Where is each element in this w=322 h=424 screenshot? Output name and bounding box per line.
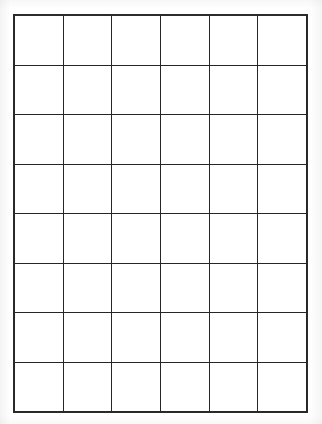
table-row (15, 313, 307, 363)
grid-container (14, 15, 307, 412)
grid-cell[interactable] (63, 115, 112, 165)
page-canvas (0, 0, 322, 424)
grid-cell[interactable] (160, 164, 209, 214)
grid-cell[interactable] (63, 263, 112, 313)
grid-cell[interactable] (258, 115, 307, 165)
grid-cell[interactable] (15, 263, 64, 313)
blank-grid-table (14, 15, 307, 412)
grid-cell[interactable] (160, 313, 209, 363)
grid-cell[interactable] (112, 214, 161, 264)
grid-cell[interactable] (258, 65, 307, 115)
table-row (15, 164, 307, 214)
grid-cell[interactable] (258, 362, 307, 412)
grid-cell[interactable] (63, 313, 112, 363)
grid-cell[interactable] (160, 115, 209, 165)
grid-cell[interactable] (209, 214, 258, 264)
table-row (15, 115, 307, 165)
grid-cell[interactable] (160, 214, 209, 264)
grid-cell[interactable] (258, 16, 307, 66)
grid-cell[interactable] (258, 263, 307, 313)
grid-cell[interactable] (112, 16, 161, 66)
grid-cell[interactable] (209, 115, 258, 165)
table-row (15, 362, 307, 412)
grid-cell[interactable] (209, 16, 258, 66)
grid-cell[interactable] (15, 16, 64, 66)
grid-cell[interactable] (160, 65, 209, 115)
grid-cell[interactable] (112, 164, 161, 214)
grid-cell[interactable] (15, 214, 64, 264)
grid-cell[interactable] (15, 65, 64, 115)
grid-cell[interactable] (112, 362, 161, 412)
grid-cell[interactable] (209, 164, 258, 214)
grid-body (15, 16, 307, 412)
grid-cell[interactable] (258, 313, 307, 363)
grid-cell[interactable] (209, 313, 258, 363)
grid-cell[interactable] (209, 263, 258, 313)
grid-cell[interactable] (112, 115, 161, 165)
grid-cell[interactable] (112, 65, 161, 115)
grid-cell[interactable] (63, 362, 112, 412)
grid-cell[interactable] (15, 164, 64, 214)
grid-cell[interactable] (63, 16, 112, 66)
grid-cell[interactable] (63, 65, 112, 115)
grid-cell[interactable] (160, 362, 209, 412)
table-row (15, 263, 307, 313)
table-row (15, 214, 307, 264)
grid-cell[interactable] (63, 214, 112, 264)
table-row (15, 16, 307, 66)
table-row (15, 65, 307, 115)
grid-cell[interactable] (209, 65, 258, 115)
grid-cell[interactable] (160, 16, 209, 66)
grid-cell[interactable] (63, 164, 112, 214)
grid-cell[interactable] (112, 263, 161, 313)
grid-cell[interactable] (112, 313, 161, 363)
grid-cell[interactable] (258, 214, 307, 264)
grid-cell[interactable] (209, 362, 258, 412)
grid-cell[interactable] (15, 313, 64, 363)
grid-cell[interactable] (15, 115, 64, 165)
grid-cell[interactable] (15, 362, 64, 412)
grid-cell[interactable] (160, 263, 209, 313)
grid-cell[interactable] (258, 164, 307, 214)
